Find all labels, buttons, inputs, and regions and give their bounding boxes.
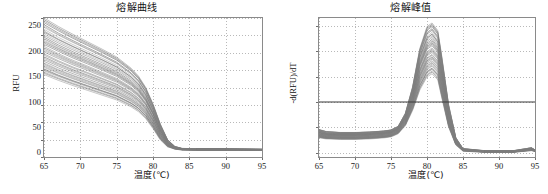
melt-curve-line xyxy=(44,29,262,149)
melt-peak-panel: 熔解峰值 -d(RFU)/dT 温度(℃) 050100150200250 65… xyxy=(274,0,548,194)
melt-analysis-figure: 熔解曲线 RFU 温度(℃) 2000220024002600280030003… xyxy=(0,0,548,194)
x-tick-label: 65 xyxy=(40,162,49,171)
x-tick-label: 85 xyxy=(459,162,468,171)
x-tick-label: 75 xyxy=(112,162,121,171)
y-tick-label: 250 xyxy=(1,21,41,30)
melt-curve-line xyxy=(44,55,262,150)
x-tick-label: 90 xyxy=(495,162,504,171)
x-tick-label: 70 xyxy=(76,162,85,171)
melt-curve-line xyxy=(44,48,262,150)
melt-curve-line xyxy=(44,43,262,150)
melt-curve-series-layer xyxy=(44,18,262,157)
x-tick-label: 75 xyxy=(387,162,396,171)
x-tick-label: 80 xyxy=(423,162,432,171)
x-tick-label: 70 xyxy=(351,162,360,171)
melt-curve-line xyxy=(44,27,262,149)
gridline-vertical xyxy=(535,18,536,157)
melt-curve-plot-area[interactable] xyxy=(43,17,263,158)
y-tick-label: 200 xyxy=(1,47,41,56)
y-tick-label: 100 xyxy=(1,98,41,107)
melt-curve-line xyxy=(44,49,262,150)
melt-curve-title: 熔解曲线 xyxy=(0,2,274,14)
y-tick-label: 0 xyxy=(1,148,41,157)
x-tick-label: 65 xyxy=(315,162,324,171)
melt-peak-plot-area[interactable] xyxy=(318,17,536,158)
x-tick-label: 90 xyxy=(221,162,230,171)
melt-curve-line xyxy=(44,52,262,150)
melt-peak-y-axis-title: -d(RFU)/dT xyxy=(288,40,298,126)
y-tick-label: 50 xyxy=(1,123,41,132)
melt-peak-x-axis-title: 温度(℃) xyxy=(318,170,534,181)
melt-curve-line xyxy=(44,44,262,149)
y-tick-label: 150 xyxy=(1,72,41,81)
melt-peak-series-layer xyxy=(319,18,535,157)
x-tick-label: 95 xyxy=(258,162,267,171)
x-tick-label: 95 xyxy=(531,162,540,171)
melt-curve-line xyxy=(319,74,535,152)
melt-curve-line xyxy=(44,51,262,150)
melt-curve-line xyxy=(44,23,262,150)
melt-curve-x-axis-title: 温度(℃) xyxy=(43,170,261,181)
melt-curve-line xyxy=(44,37,262,150)
gridline-horizontal xyxy=(44,157,262,158)
melt-curve-line xyxy=(44,54,262,150)
x-tick-label: 85 xyxy=(185,162,194,171)
melt-curve-line xyxy=(44,46,262,150)
melt-curve-line xyxy=(44,35,262,149)
melt-curve-line xyxy=(44,39,262,150)
x-tick-label: 80 xyxy=(149,162,158,171)
melt-peak-title: 熔解峰值 xyxy=(274,2,548,14)
melt-curve-panel: 熔解曲线 RFU 温度(℃) 2000220024002600280030003… xyxy=(0,0,274,194)
gridline-vertical xyxy=(262,18,263,157)
